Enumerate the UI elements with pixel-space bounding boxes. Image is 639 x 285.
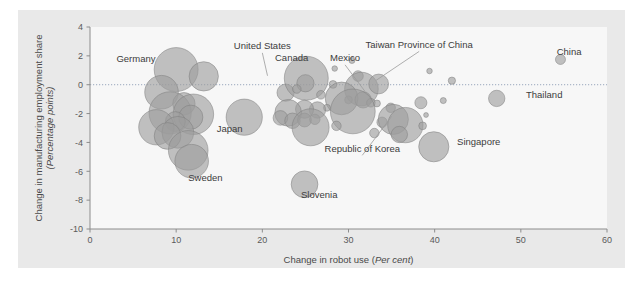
bubble-label: Japan — [217, 123, 243, 134]
bubble-point — [292, 109, 329, 146]
y-axis-title-units: (Percentage points) — [44, 87, 55, 170]
chart-figure: 0102030405060 420-2-4-6-8-10 GermanyUnit… — [0, 0, 639, 285]
bubble-chart: 0102030405060 420-2-4-6-8-10 GermanyUnit… — [0, 0, 639, 285]
x-tick-label: 60 — [602, 235, 612, 245]
bubble-label: Slovenia — [301, 189, 338, 200]
y-tick-label: -8 — [75, 195, 83, 205]
x-axis-tick-labels: 0102030405060 — [87, 229, 612, 245]
bubble-point — [332, 66, 338, 72]
bubble-label: United States — [234, 40, 291, 51]
y-tick-label: -2 — [75, 109, 83, 119]
bubble-point — [189, 62, 218, 91]
y-tick-label: 0 — [78, 80, 83, 90]
x-tick-label: 40 — [430, 235, 440, 245]
x-tick-label: 10 — [171, 235, 181, 245]
bubble-label: Germany — [116, 53, 155, 64]
x-tick-label: 0 — [87, 235, 92, 245]
x-tick-label: 50 — [516, 235, 526, 245]
x-axis-title: Change in robot use (Per cent) — [284, 254, 414, 265]
bubble-label: Republic of Korea — [325, 143, 401, 154]
bubble-point — [419, 132, 449, 162]
bubble-point — [440, 98, 446, 104]
bubble-point — [419, 122, 427, 130]
bubble-label: Canada — [275, 52, 309, 63]
y-tick-label: 2 — [78, 51, 83, 61]
y-tick-label: -10 — [70, 224, 83, 234]
y-tick-label: -6 — [75, 167, 83, 177]
bubble-point — [424, 113, 429, 118]
bubble-point — [369, 74, 389, 94]
bubble-point — [332, 121, 341, 130]
bubble-point — [370, 128, 379, 137]
x-tick-label: 30 — [343, 235, 353, 245]
bubble-label: Mexico — [330, 52, 360, 63]
bubble-point — [317, 91, 326, 100]
y-tick-label: 4 — [78, 22, 83, 32]
bubble-point — [489, 90, 505, 106]
bubble-label: Taiwan Province of China — [366, 39, 474, 50]
bubble-label: Sweden — [188, 172, 222, 183]
x-tick-label: 20 — [257, 235, 267, 245]
bubble-point — [415, 97, 427, 109]
y-tick-label: -4 — [75, 138, 83, 148]
bubble-point — [427, 68, 433, 74]
y-axis-tick-labels: 420-2-4-6-8-10 — [70, 22, 90, 234]
bubble-point — [292, 85, 301, 94]
bubble-label: China — [557, 46, 583, 57]
y-axis-title: Change in manufacturing employment share — [33, 35, 44, 222]
bubble-point — [391, 126, 407, 142]
bubble-label: Thailand — [526, 89, 562, 100]
bubble-label: Singapore — [457, 136, 500, 147]
bubble-point — [448, 77, 455, 84]
